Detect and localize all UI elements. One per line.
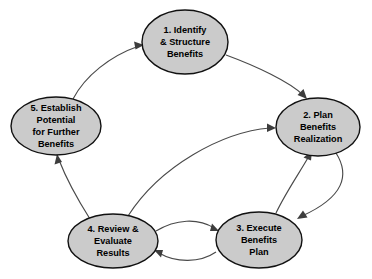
edge-1-to-2-path bbox=[226, 55, 303, 95]
edge-4-to-3 bbox=[156, 221, 219, 231]
edge-3-to-4-path bbox=[159, 252, 216, 260]
edge-3-to-2-path bbox=[276, 156, 309, 213]
node-1-line-3: Benefits bbox=[167, 49, 203, 59]
node-3-line-1: 3. Execute bbox=[236, 223, 281, 233]
edge-1-to-2 bbox=[226, 55, 307, 99]
node-review-and-evaluate-results[interactable]: 4. Review & Evaluate Results bbox=[68, 214, 158, 268]
node-3-line-2: Benefits bbox=[241, 235, 277, 245]
edge-2-to-3 bbox=[297, 153, 343, 219]
edge-3-to-4 bbox=[154, 250, 216, 260]
edge-3-to-2 bbox=[276, 151, 312, 213]
node-1-line-1: 1. Identify bbox=[164, 25, 208, 35]
cycle-diagram-canvas: 1. Identify & Structure Benefits 2. Plan… bbox=[0, 0, 372, 279]
node-1-line-2: & Structure bbox=[160, 37, 210, 47]
node-execute-benefits-plan[interactable]: 3. Execute Benefits Plan bbox=[216, 212, 302, 268]
edge-2-to-3-path bbox=[302, 153, 343, 216]
node-2-line-1: 2. Plan bbox=[303, 110, 333, 120]
node-4-line-1: 4. Review & bbox=[87, 224, 138, 234]
edge-4-to-3-path bbox=[156, 221, 214, 231]
edge-1-to-2-arrowhead bbox=[298, 89, 308, 99]
edge-5-to-1-path bbox=[73, 46, 139, 99]
node-4-line-2: Evaluate bbox=[94, 236, 132, 246]
edge-4-to-2-arrowhead bbox=[267, 124, 276, 133]
node-establish-potential-for-further-benefits[interactable]: 5. Establish Potential for Further Benef… bbox=[11, 97, 101, 155]
node-2-line-3: Realization bbox=[294, 134, 343, 144]
edge-4-to-5 bbox=[55, 154, 91, 219]
benefits-cycle-diagram: 1. Identify & Structure Benefits 2. Plan… bbox=[0, 0, 372, 279]
node-5-line-3: for Further bbox=[33, 127, 80, 137]
node-5-line-4: Benefits bbox=[38, 139, 74, 149]
node-5-line-2: Potential bbox=[37, 115, 76, 125]
edge-4-to-2-path bbox=[128, 128, 270, 216]
node-2-line-2: Benefits bbox=[300, 122, 336, 132]
edge-4-to-5-path bbox=[59, 160, 90, 219]
node-plan-benefits-realization[interactable]: 2. Plan Benefits Realization bbox=[276, 98, 360, 156]
node-3-line-3: Plan bbox=[249, 247, 269, 257]
node-5-line-1: 5. Establish bbox=[30, 103, 81, 113]
nodes-layer: 1. Identify & Structure Benefits 2. Plan… bbox=[11, 10, 360, 268]
node-identify-and-structure-benefits[interactable]: 1. Identify & Structure Benefits bbox=[142, 10, 228, 74]
edge-4-to-3-arrowhead bbox=[210, 224, 219, 232]
edge-4-to-2 bbox=[128, 124, 276, 217]
edge-5-to-1 bbox=[73, 42, 144, 100]
node-4-line-3: Results bbox=[96, 248, 129, 258]
